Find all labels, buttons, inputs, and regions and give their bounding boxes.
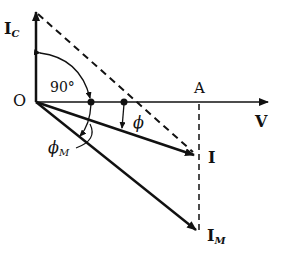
motor-current-vector bbox=[36, 102, 196, 230]
label-phi-m: ϕM bbox=[48, 140, 69, 158]
label-phi: ϕ bbox=[133, 115, 144, 131]
phasor-diagram: IC 90° O A V ϕ ϕM I IM bbox=[0, 0, 285, 260]
label-i: I bbox=[208, 150, 215, 166]
label-a: A bbox=[194, 81, 205, 96]
label-origin: O bbox=[13, 93, 26, 109]
phi-arc bbox=[122, 104, 124, 128]
label-90deg: 90° bbox=[50, 80, 75, 94]
label-im: IM bbox=[207, 228, 226, 246]
label-v: V bbox=[255, 114, 267, 130]
label-ic: IC bbox=[4, 21, 19, 39]
